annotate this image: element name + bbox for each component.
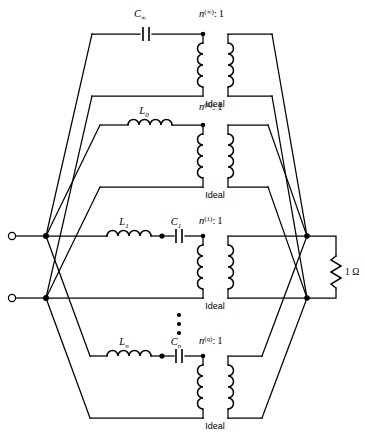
- inductor-L0-label: L0: [138, 105, 149, 119]
- input-node-bottom: [43, 295, 49, 301]
- branch-1: [46, 229, 307, 298]
- xfmr-0-ratio-label: n(0):1: [199, 101, 223, 113]
- load-network: [304, 233, 341, 301]
- xfmr-0-secondary-coil: [228, 134, 234, 178]
- branch-infinity: [92, 27, 272, 96]
- xfmr-infinity-ratio-label: n(∞):1: [199, 8, 224, 20]
- xfmr-n-ratio-label: n(q):1: [199, 335, 223, 347]
- input-terminal-bottom[interactable]: [8, 294, 15, 301]
- fanin-branch-0-top: [268, 125, 307, 236]
- xfmr-n-secondary-coil: [228, 365, 234, 409]
- xfmr-n-ideal-label: Ideal: [205, 421, 225, 431]
- inductor-L1-label: L1: [118, 216, 128, 230]
- fanout-top-to-branch-infinity: [46, 34, 92, 236]
- capacitor-Cn-label: Cn: [171, 336, 182, 350]
- capacitor-C1-label: C1: [171, 216, 182, 230]
- ellipsis-dot-1: [177, 313, 181, 317]
- xfmr-1-secondary-coil: [228, 245, 234, 289]
- circuit-schematic: C∞ n(∞):1 Ideal L0 n(0):1 Ideal L1 C1 n(…: [0, 0, 365, 436]
- xfmr-1-ideal-label: Ideal: [205, 301, 225, 311]
- left-fanout-wires: [46, 34, 100, 418]
- figure-canvas: C∞ n(∞):1 Ideal L0 n(0):1 Ideal L1 C1 n(…: [0, 0, 365, 436]
- branch-0: [100, 120, 268, 187]
- fanout-bot-to-branch-infinity: [46, 96, 92, 298]
- fanin-branch-n-bot: [262, 298, 307, 418]
- xfmr-0-ideal-label: Ideal: [205, 190, 225, 200]
- capacitor-infinity-label: C∞: [134, 8, 146, 22]
- ellipsis-dot-3: [177, 331, 181, 335]
- xfmr-n-primary-coil: [198, 365, 204, 409]
- vertical-ellipsis: [177, 313, 181, 335]
- load-wire-top: [307, 236, 336, 256]
- load-resistor-label: 1 Ω: [345, 267, 359, 277]
- inductor-L1-coil: [107, 231, 151, 237]
- inductor-Ln-label: Ln: [118, 336, 129, 350]
- fanout-bot-to-branch-n: [46, 298, 90, 418]
- xfmr-infinity-secondary-coil: [228, 43, 234, 87]
- fanout-bot-to-branch-0: [46, 187, 100, 298]
- inductor-L0-coil: [128, 120, 172, 125]
- branch-n: [90, 349, 262, 418]
- ellipsis-dot-2: [177, 322, 181, 326]
- xfmr-infinity-primary-coil: [198, 43, 204, 87]
- fanin-branch-n-top: [262, 236, 307, 356]
- load-resistor-zigzag: [331, 256, 341, 288]
- input-terminal-top[interactable]: [8, 232, 15, 239]
- fanin-branch-infinity-top: [272, 34, 307, 236]
- input-node-top: [43, 233, 49, 239]
- xfmr-1-primary-coil: [198, 245, 204, 289]
- input-terminals: [8, 232, 49, 301]
- fanin-branch-infinity-bot: [272, 96, 307, 298]
- xfmr-1-ratio-label: n(1):1: [199, 215, 223, 227]
- right-fanin-wires: [262, 34, 307, 418]
- xfmr-0-primary-coil: [197, 134, 203, 178]
- inductor-Ln-coil: [107, 351, 151, 357]
- load-wire-bottom: [307, 288, 336, 298]
